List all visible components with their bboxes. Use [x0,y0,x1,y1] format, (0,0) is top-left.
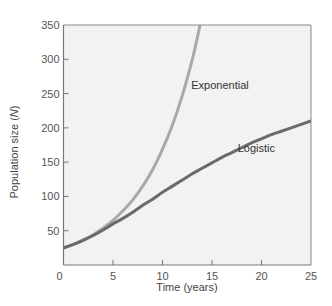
y-tick-label: 50 [47,225,59,237]
y-tick-label: 200 [41,122,59,134]
y-axis-label: Population size (N) [8,106,20,199]
logistic-label: Logistic [238,142,276,154]
x-tick-label: 25 [305,270,317,282]
x-axis-label: Time (years) [156,281,217,293]
y-tick-label: 350 [41,19,59,31]
x-tick-label: 0 [56,270,62,282]
y-tick-label: 300 [41,53,59,65]
population-growth-chart: 50100150200250300350 0510152025 Exponent… [0,0,332,306]
y-tick-label: 150 [41,156,59,168]
x-tick-label: 5 [110,270,116,282]
x-tick-label: 20 [255,270,267,282]
y-tick-label: 100 [41,190,59,202]
exponential-label: Exponential [191,79,249,91]
y-tick-label: 250 [41,88,59,100]
